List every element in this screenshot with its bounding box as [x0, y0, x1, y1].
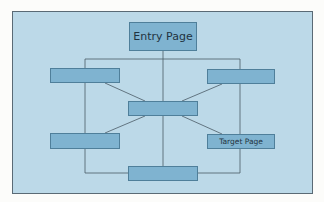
center-node	[128, 101, 198, 116]
left-bottom-node	[50, 133, 120, 149]
entry-page-label: Entry Page	[133, 30, 192, 43]
left-top-node	[50, 68, 120, 83]
bottom-node	[128, 166, 198, 181]
target-page-label: Target Page	[219, 137, 263, 146]
entry-page-node: Entry Page	[129, 22, 197, 51]
right-top-node	[207, 69, 275, 84]
target-page-node: Target Page	[207, 134, 275, 149]
